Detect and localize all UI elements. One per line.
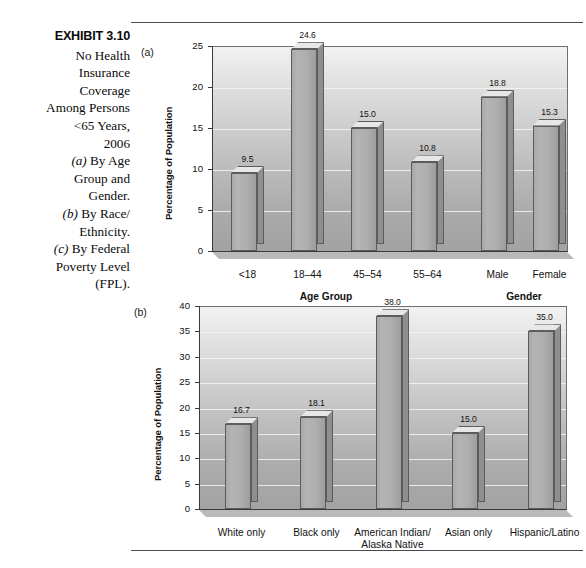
bar-side-face <box>377 121 384 244</box>
bar-front-face <box>231 173 257 251</box>
y-axis-line <box>212 46 213 252</box>
bar-front-face <box>481 97 507 251</box>
bar-side-face <box>437 155 444 244</box>
panel-a-plot-area <box>213 46 568 251</box>
caption-note-line: (FPL). <box>6 275 130 293</box>
y-axis-tick <box>195 509 199 510</box>
caption-note-tag: (a) <box>71 153 86 168</box>
y-axis-label: 25 <box>177 41 203 51</box>
y-axis-tick <box>195 484 199 485</box>
chart-panel-b: (b) Percentage of Population 40353025201… <box>134 296 586 546</box>
panel-b-y-axis-title: Percentage of Population <box>152 368 163 481</box>
bar: 16.7 <box>225 306 251 509</box>
x-axis-label: Hispanic/Latino <box>490 527 586 539</box>
bar: 10.8 <box>411 46 437 251</box>
y-axis-label: 20 <box>164 403 190 413</box>
caption-note-line: (a) By Age <box>6 152 130 170</box>
caption-note-line: Poverty Level <box>6 258 130 276</box>
caption-note-text: By Race/ <box>78 206 130 221</box>
y-axis-tick <box>195 306 199 307</box>
bar-side-face <box>257 166 264 244</box>
bar-front-face <box>291 49 317 251</box>
bar-value-label: 15.0 <box>338 110 398 119</box>
caption-note-tag: (b) <box>63 206 78 221</box>
y-axis-tick <box>208 169 212 170</box>
x-axis-line <box>212 251 568 252</box>
panel-b-tag: (b) <box>134 306 147 318</box>
y-axis-label: 35 <box>164 326 190 336</box>
y-axis-tick <box>195 331 199 332</box>
caption-note-line: Gender. <box>6 187 130 205</box>
y-axis-label: 10 <box>177 164 203 174</box>
caption-line: No Health <box>6 47 130 65</box>
y-axis-tick <box>195 433 199 434</box>
bar-front-face <box>452 433 478 509</box>
bar-front-face <box>300 417 326 509</box>
bar-value-label: 24.6 <box>278 31 338 40</box>
y-axis-label: 20 <box>177 82 203 92</box>
bar-front-face <box>225 424 251 509</box>
bar-side-face <box>507 90 514 244</box>
y-axis-tick <box>208 210 212 211</box>
y-axis-label: 10 <box>164 453 190 463</box>
x-axis-label-line: Female <box>495 269 586 281</box>
bar-side-face <box>478 426 485 502</box>
bar-side-face <box>326 410 333 502</box>
y-axis-tick <box>195 408 199 409</box>
caption-note-text: By Age <box>87 153 130 168</box>
bar-front-face <box>376 316 402 509</box>
bar-value-label: 16.7 <box>212 406 272 415</box>
y-axis-label: 5 <box>177 205 203 215</box>
exhibit-number: EXHIBIT 3.10 <box>6 28 130 46</box>
bar-side-face <box>317 42 324 244</box>
y-axis-label: 30 <box>164 352 190 362</box>
y-axis-label: 40 <box>164 301 190 311</box>
bar-side-face <box>402 309 409 502</box>
bar: 15.0 <box>452 306 478 509</box>
caption-note-line: Group and <box>6 170 130 188</box>
bar-side-face <box>251 417 258 502</box>
y-axis-label: 15 <box>177 123 203 133</box>
y-axis-label: 0 <box>164 504 190 514</box>
exhibit-caption: EXHIBIT 3.10 No Health Insurance Coverag… <box>6 28 130 293</box>
bar-value-label: 18.8 <box>468 79 528 88</box>
bar-value-label: 15.0 <box>439 415 499 424</box>
bar-front-face <box>533 126 559 251</box>
bar-front-face <box>528 331 554 509</box>
x-axis-line <box>199 509 567 510</box>
y-axis-line <box>199 306 200 510</box>
y-axis-tick <box>195 382 199 383</box>
chart-floor <box>212 252 574 259</box>
bar: 24.6 <box>291 46 317 251</box>
x-axis-label-line: Hispanic/Latino <box>490 527 586 539</box>
bar-front-face <box>351 128 377 251</box>
caption-line: 2006 <box>6 135 130 153</box>
bar: 18.8 <box>481 46 507 251</box>
chart-floor <box>199 510 573 517</box>
caption-note-line: (b) By Race/ <box>6 205 130 223</box>
bar-value-label: 15.3 <box>520 108 580 117</box>
caption-note-line: (c) By Federal <box>6 240 130 258</box>
y-axis-label: 15 <box>164 428 190 438</box>
gridline <box>213 88 567 89</box>
caption-line: <65 Years, <box>6 117 130 135</box>
panel-a-y-axis-title: Percentage of Population <box>163 107 174 220</box>
y-axis-tick <box>195 458 199 459</box>
bar-value-label: 18.1 <box>287 399 347 408</box>
caption-line: Coverage <box>6 82 130 100</box>
x-axis-label-line: Alaska Native <box>338 539 448 551</box>
bar: 38.0 <box>376 306 402 509</box>
bar: 15.0 <box>351 46 377 251</box>
y-axis-tick <box>208 128 212 129</box>
caption-note-text: By Federal <box>68 241 130 256</box>
bar-value-label: 35.0 <box>515 313 575 322</box>
caption-line: Among Persons <box>6 99 130 117</box>
bar-side-face <box>559 119 566 244</box>
top-rule <box>131 22 583 23</box>
chart-panel-a: (a) Percentage of Population 25201510509… <box>141 30 586 285</box>
bar: 18.1 <box>300 306 326 509</box>
bar: 35.0 <box>528 306 554 509</box>
bar: 15.3 <box>533 46 559 251</box>
bar-side-face <box>554 324 561 502</box>
y-axis-label: 0 <box>177 246 203 256</box>
